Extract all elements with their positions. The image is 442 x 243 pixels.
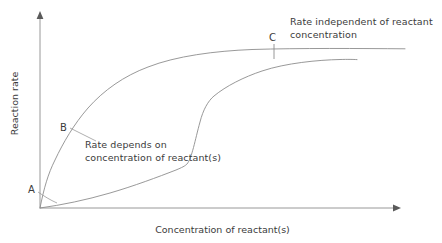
point-label-b: B — [60, 123, 67, 133]
curve-sigmoidal — [40, 59, 357, 208]
annotation-rate-independent: Rate independent of reactant concentrati… — [290, 16, 440, 41]
x-axis-label: Concentration of reactant(s) — [130, 224, 315, 235]
annotation-rate-depends: Rate depends on concentration of reactan… — [85, 139, 235, 164]
leader-line-a — [38, 192, 57, 203]
y-axis-arrowhead — [37, 11, 44, 19]
curve-hyperbolic-saturation — [40, 48, 405, 208]
reaction-rate-diagram: Reaction rate Concentration of reactant(… — [0, 0, 442, 243]
point-label-a: A — [28, 185, 35, 195]
x-axis-arrowhead — [393, 205, 401, 212]
point-label-c: C — [269, 33, 276, 43]
y-axis-label: Reaction rate — [9, 64, 20, 144]
